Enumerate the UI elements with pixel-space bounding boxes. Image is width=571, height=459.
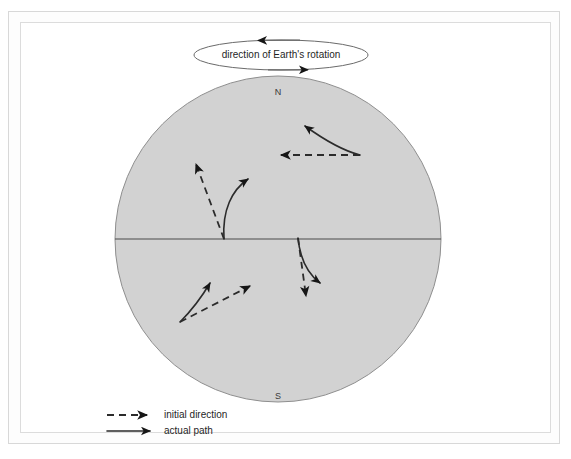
coriolis-diagram: N S direction of Earth's rotation [0,0,571,459]
legend-item-initial: initial direction [107,409,227,420]
legend: initial direction actual path [107,409,227,436]
legend-initial-direction-label: initial direction [164,409,227,420]
rotation-label: direction of Earth's rotation [222,49,341,60]
legend-item-actual: actual path [107,425,213,436]
north-pole-label: N [275,87,282,97]
rotation-indicator: direction of Earth's rotation [194,40,368,70]
south-pole-label: S [275,391,281,401]
legend-actual-path-label: actual path [164,425,213,436]
figure-root: N S direction of Earth's rotation [0,0,571,459]
